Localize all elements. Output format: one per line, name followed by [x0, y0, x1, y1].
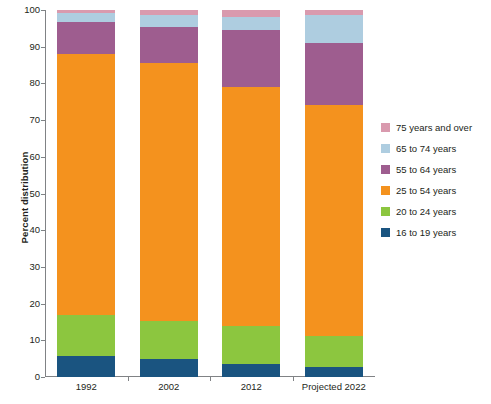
bar-group[interactable]: [222, 10, 280, 377]
legend-item-label: 20 to 24 years: [396, 207, 456, 217]
y-axis-tick-label: 90: [14, 42, 40, 52]
legend-swatch-icon: [381, 165, 390, 174]
legend-item-label: 75 years and over: [396, 123, 472, 133]
bar-segment[interactable]: [305, 15, 363, 43]
y-axis-tick-mark: [41, 340, 45, 341]
y-axis-tick-label: 50: [14, 189, 40, 199]
y-axis-tick-label: 100: [14, 5, 40, 15]
x-axis-tick-label: 2012: [241, 381, 262, 392]
legend-item[interactable]: 20 to 24 years: [381, 201, 489, 222]
x-axis-tick-label: 2002: [158, 381, 179, 392]
y-axis-tick-mark: [41, 120, 45, 121]
bar-segment[interactable]: [57, 356, 115, 377]
y-axis-tick-mark: [41, 377, 45, 378]
legend-item[interactable]: 25 to 54 years: [381, 180, 489, 201]
bar-segment[interactable]: [140, 321, 198, 358]
chart-legend: 75 years and over65 to 74 years55 to 64 …: [381, 117, 489, 243]
bar-segment[interactable]: [140, 359, 198, 377]
bar-stack: [222, 10, 280, 377]
y-axis-tick-mark: [41, 194, 45, 195]
legend-item[interactable]: 55 to 64 years: [381, 159, 489, 180]
legend-swatch-icon: [381, 228, 390, 237]
legend-swatch-icon: [381, 186, 390, 195]
bar-segment[interactable]: [57, 315, 115, 356]
bar-segment[interactable]: [140, 63, 198, 321]
y-axis-tick-label: 70: [14, 115, 40, 125]
y-axis-tick-mark: [41, 304, 45, 305]
y-axis-tick-mark: [41, 83, 45, 84]
legend-item-label: 55 to 64 years: [396, 165, 456, 175]
plot-area: [45, 10, 375, 377]
bar-segment[interactable]: [222, 87, 280, 326]
bar-segment[interactable]: [305, 10, 363, 15]
legend-item[interactable]: 65 to 74 years: [381, 138, 489, 159]
stacked-bar-chart: Percent distribution 0102030405060708090…: [0, 0, 491, 404]
bar-segment[interactable]: [140, 27, 198, 64]
y-axis-tick-label: 20: [14, 299, 40, 309]
bar-segment[interactable]: [222, 10, 280, 17]
bar-stack: [57, 10, 115, 377]
bar-segment[interactable]: [140, 10, 198, 15]
y-axis-tick-label: 10: [14, 336, 40, 346]
y-axis-tick-label: 40: [14, 225, 40, 235]
bar-segment[interactable]: [222, 364, 280, 377]
bar-segment[interactable]: [305, 105, 363, 335]
bar-segment[interactable]: [222, 30, 280, 87]
y-axis-tick-mark: [41, 230, 45, 231]
y-axis-tick-labels: 0102030405060708090100: [14, 0, 40, 404]
legend-item-label: 25 to 54 years: [396, 186, 456, 196]
bar-segment[interactable]: [57, 54, 115, 315]
y-axis-tick-label: 0: [14, 372, 40, 382]
y-axis-tick-label: 30: [14, 262, 40, 272]
legend-item[interactable]: 16 to 19 years: [381, 222, 489, 243]
bar-group[interactable]: [305, 10, 363, 377]
bar-segment[interactable]: [305, 43, 363, 105]
bar-segment[interactable]: [57, 13, 115, 22]
bar-segment[interactable]: [305, 336, 363, 368]
y-axis-tick-mark: [41, 267, 45, 268]
legend-swatch-icon: [381, 123, 390, 132]
y-axis-tick-mark: [41, 10, 45, 11]
bar-segment[interactable]: [140, 15, 198, 26]
bar-segment[interactable]: [57, 10, 115, 13]
y-axis-tick-label: 60: [14, 152, 40, 162]
bar-stack: [140, 10, 198, 377]
x-axis-tick-label: Projected 2022: [302, 381, 366, 392]
legend-swatch-icon: [381, 207, 390, 216]
x-axis-tick-labels: 199220022012Projected 2022: [45, 381, 375, 403]
y-axis-line: [45, 10, 46, 377]
y-axis-tick-mark: [41, 157, 45, 158]
legend-swatch-icon: [381, 144, 390, 153]
y-axis-tick-mark: [41, 47, 45, 48]
legend-item-label: 16 to 19 years: [396, 228, 456, 238]
bar-segment[interactable]: [222, 17, 280, 31]
x-axis-tick-label: 1992: [76, 381, 97, 392]
legend-item-label: 65 to 74 years: [396, 144, 456, 154]
legend-item[interactable]: 75 years and over: [381, 117, 489, 138]
bar-segment[interactable]: [305, 367, 363, 377]
bar-stack: [305, 10, 363, 377]
bar-group[interactable]: [57, 10, 115, 377]
bar-segment[interactable]: [222, 326, 280, 365]
bar-segment[interactable]: [57, 22, 115, 54]
bar-group[interactable]: [140, 10, 198, 377]
y-axis-tick-label: 80: [14, 79, 40, 89]
